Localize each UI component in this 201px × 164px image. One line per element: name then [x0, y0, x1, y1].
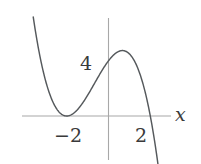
x-axis-label: x	[175, 105, 186, 124]
x-tick-label-negative-2: −2	[54, 126, 82, 145]
x-tick-label-2: 2	[135, 126, 147, 145]
plot-canvas	[0, 0, 201, 164]
cubic-graph-figure: 4 −2 2 x	[0, 0, 201, 164]
y-tick-label-4: 4	[80, 54, 92, 73]
